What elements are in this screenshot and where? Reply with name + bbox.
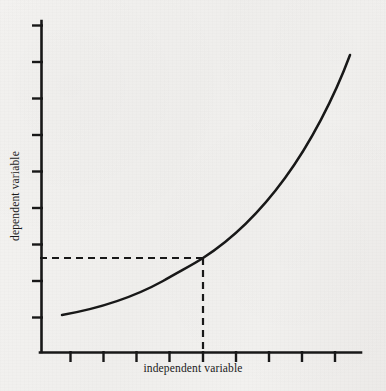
y-axis-label-container: dependent variable xyxy=(0,0,30,391)
plot-area xyxy=(0,0,386,391)
axis-lines xyxy=(40,21,361,353)
data-curve xyxy=(62,55,350,315)
x-axis-label: independent variable xyxy=(0,362,386,374)
y-axis-label: dependent variable xyxy=(9,151,21,241)
chart-figure: dependent variable independent variable xyxy=(0,0,386,391)
